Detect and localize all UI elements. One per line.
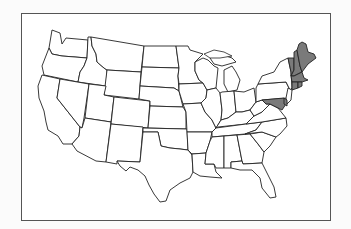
state-washington: [49, 30, 88, 58]
state-florida: [231, 161, 276, 198]
state-rhode-island: [298, 82, 302, 88]
lake-superior: [204, 50, 232, 58]
state-north-dakota: [142, 46, 179, 68]
state-wyoming: [104, 70, 141, 99]
state-new-mexico: [106, 124, 143, 164]
state-connecticut: [292, 82, 298, 90]
state-delaware: [284, 98, 287, 106]
us-map: [0, 0, 351, 229]
state-colorado: [111, 97, 150, 128]
state-kansas: [148, 106, 186, 129]
